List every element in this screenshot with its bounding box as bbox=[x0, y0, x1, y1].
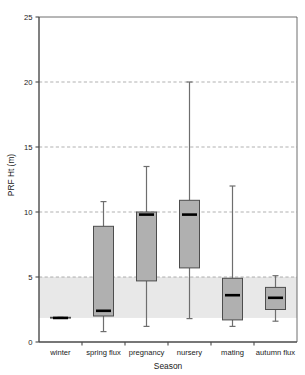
y-tick-label: 5 bbox=[28, 273, 32, 282]
boxplot-figure: 0510152025 winterspring fluxpregnancynur… bbox=[0, 0, 305, 375]
y-tick-label: 10 bbox=[24, 208, 32, 217]
box-rect bbox=[223, 278, 243, 320]
y-axis-title: PRF Ht (m) bbox=[6, 154, 16, 197]
x-category-label: spring flux bbox=[86, 348, 121, 357]
y-tick-label: 0 bbox=[28, 338, 32, 347]
box-rect bbox=[137, 212, 157, 281]
x-category-label: mating bbox=[221, 348, 244, 357]
y-tick-label: 25 bbox=[24, 13, 32, 22]
shaded-reference-band bbox=[39, 277, 297, 318]
plot-background bbox=[0, 0, 305, 375]
y-tick-label: 20 bbox=[24, 78, 32, 87]
x-axis-title: Season bbox=[154, 361, 183, 371]
x-category-label: autumn flux bbox=[256, 348, 295, 357]
chart-canvas: 0510152025 winterspring fluxpregnancynur… bbox=[0, 0, 305, 375]
box-rect bbox=[94, 226, 114, 316]
boxplot-box bbox=[51, 317, 71, 318]
y-tick-label: 15 bbox=[24, 143, 32, 152]
reference-band bbox=[39, 277, 297, 318]
x-category-label: winter bbox=[49, 348, 71, 357]
x-category-label: pregnancy bbox=[129, 348, 165, 357]
box-rect bbox=[180, 200, 200, 268]
x-category-label: nursery bbox=[177, 348, 203, 357]
